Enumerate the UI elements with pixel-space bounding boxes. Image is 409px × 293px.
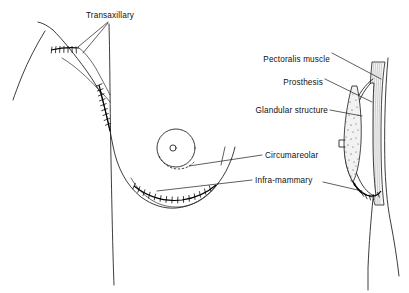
nipple-circle [170,145,176,151]
label-inframammary: Infra-mammary [255,176,313,185]
arm-outline [13,31,45,100]
label-prosthesis: Prosthesis [283,78,323,87]
label-circumareolar: Circumareolar [265,151,318,160]
breast-lateral-contour [101,94,235,208]
torso-midline [109,24,114,285]
leader-lines [78,22,381,191]
label-glandular-structure: Glandular structure [256,106,329,115]
leader-transaxillary-lower [83,23,108,53]
axillary-suture [51,46,79,54]
label-transaxillary: Transaxillary [86,11,135,20]
lateral-chest-suture [96,84,111,131]
illustration-canvas: Transaxillary Pectoralis muscle Prosthes… [0,0,409,293]
medical-illustration-figure: Transaxillary Pectoralis muscle Prosthes… [0,0,409,293]
axillary-lower-guide [62,58,110,102]
label-pectoralis-muscle: Pectoralis muscle [263,55,330,64]
leader-circumareolar [189,155,262,166]
leader-circumareolar-tick [221,147,225,165]
axillary-approach-line [79,48,110,95]
leader-transaxillary-upper [78,22,108,47]
lateral-cross-section-view [339,58,399,290]
chest-wall-posterior [385,58,399,276]
abdomen-profile-line [368,199,373,290]
shoulder-top-line [38,22,53,30]
frontal-torso-view [13,22,235,285]
